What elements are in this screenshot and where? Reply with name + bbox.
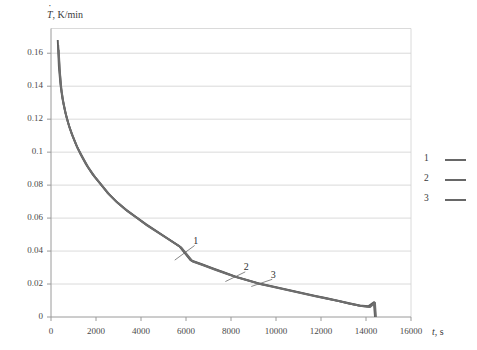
y-tick-label: 0.06 <box>3 212 43 222</box>
chart-figure: T, K/min t, s 00.020.040.060.080.10.120.… <box>0 0 477 350</box>
y-tick-label: 0.04 <box>3 245 43 255</box>
x-tick-label: 12000 <box>298 326 344 336</box>
x-tick-label: 14000 <box>343 326 389 336</box>
x-tick-label: 8000 <box>208 326 254 336</box>
x-tick-label: 10000 <box>253 326 299 336</box>
curve-label-2: 2 <box>244 261 249 272</box>
x-tick-label: 2000 <box>73 326 119 336</box>
legend-label-1: 1 <box>424 153 429 163</box>
curve-label-3: 3 <box>271 269 276 280</box>
legend-swatch-3 <box>445 199 466 201</box>
y-tick-label: 0 <box>3 311 43 321</box>
y-axis-units: , K/min <box>53 9 84 20</box>
y-tick-label: 0.08 <box>3 179 43 189</box>
y-tick-label: 0.16 <box>3 47 43 57</box>
y-axis-title: T, K/min <box>47 9 83 20</box>
x-tick-label: 0 <box>28 326 74 336</box>
curve-label-1: 1 <box>193 235 198 246</box>
x-tick-label: 16000 <box>388 326 434 336</box>
y-tick-label: 0.12 <box>3 113 43 123</box>
x-tick-label: 4000 <box>118 326 164 336</box>
legend-label-2: 2 <box>424 173 429 183</box>
plot-background <box>51 29 411 318</box>
y-tick-label: 0.02 <box>3 278 43 288</box>
legend-swatch-1 <box>445 159 466 161</box>
legend-swatch-2 <box>445 179 466 181</box>
x-tick-label: 6000 <box>163 326 209 336</box>
y-tick-label: 0.14 <box>3 80 43 90</box>
y-tick-label: 0.1 <box>3 146 43 156</box>
chart-canvas <box>0 0 477 350</box>
legend-label-3: 3 <box>424 193 429 203</box>
